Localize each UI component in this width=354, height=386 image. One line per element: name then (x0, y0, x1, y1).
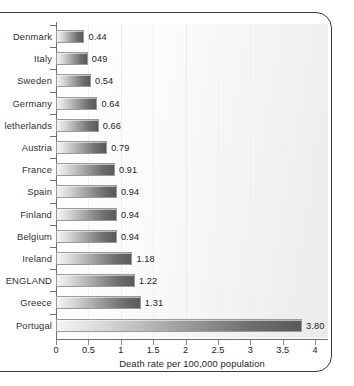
x-axis-tick-label: 2 (183, 345, 188, 355)
category-label: Belgium (17, 231, 52, 242)
bar (56, 74, 91, 87)
x-axis-tick-label: 3.5 (276, 345, 289, 355)
category-label: Finland (20, 209, 52, 220)
bar (56, 230, 117, 243)
bar (56, 208, 117, 221)
category-axis-tick (50, 114, 56, 115)
category-label: Greece (20, 297, 52, 308)
bar (56, 52, 88, 65)
bar (56, 274, 135, 287)
gridline (315, 24, 316, 338)
gridline (250, 24, 251, 338)
category-label: France (22, 164, 52, 175)
bar (56, 141, 107, 154)
value-axis-line (56, 339, 328, 340)
x-axis-tick-label: 2.5 (212, 345, 225, 355)
bar-value-label: 049 (92, 54, 108, 64)
bar-value-label: 0.44 (88, 32, 106, 42)
category-axis-tick (50, 136, 56, 137)
gridline (88, 24, 89, 338)
x-axis-tick-label: 4 (312, 345, 317, 355)
gridline (121, 24, 122, 338)
category-axis-tick (50, 291, 56, 292)
category-label: Portugal (16, 320, 52, 331)
x-axis-tick-label: 3 (248, 345, 253, 355)
category-axis-tick (50, 92, 56, 93)
category-label: Germany (12, 98, 52, 109)
category-label: Austria (22, 142, 52, 153)
bar-value-label: 1.18 (136, 254, 154, 264)
x-axis-tick-label: 0 (53, 345, 58, 355)
bar-value-label: 3.80 (306, 321, 324, 331)
bar-value-label: 0.94 (121, 187, 139, 197)
bar-value-label: 0.91 (119, 165, 137, 175)
bar-value-label: 0.79 (111, 143, 129, 153)
category-axis-tick (50, 203, 56, 204)
category-label: letherlands (4, 120, 52, 131)
category-label: Ireland (22, 253, 52, 264)
category-axis-tick (50, 247, 56, 248)
bar (56, 296, 141, 309)
x-axis-tick-label: 0.5 (82, 345, 95, 355)
category-axis-tick (50, 225, 56, 226)
category-axis-tick (50, 47, 56, 48)
gridline (153, 24, 154, 338)
category-label: Denmark (13, 31, 52, 42)
plot-area (56, 24, 328, 338)
category-label: Sweden (17, 75, 52, 86)
bar (56, 119, 99, 132)
category-axis-tick (50, 180, 56, 181)
bar (56, 185, 117, 198)
bar-value-label: 0.94 (121, 232, 139, 242)
category-label: Italy (34, 53, 52, 64)
x-axis-title: Death rate per 100,000 population (56, 358, 328, 369)
bar (56, 30, 84, 43)
bar-value-label: 1.31 (145, 298, 163, 308)
bar-value-label: 0.64 (101, 99, 119, 109)
category-axis-tick (50, 25, 56, 26)
gridline (218, 24, 219, 338)
chart-figure: Death rate per 100,000 population 00.511… (0, 0, 354, 386)
category-label: ENGLAND (6, 275, 52, 286)
category-axis-tick (50, 69, 56, 70)
x-axis-tick-label: 1 (118, 345, 123, 355)
bar-value-label: 1.22 (139, 276, 157, 286)
category-label: Spain (27, 186, 52, 197)
bar-value-label: 0.94 (121, 210, 139, 220)
bar-value-label: 0.54 (95, 76, 113, 86)
category-axis-line (56, 22, 57, 340)
category-axis-tick (50, 269, 56, 270)
bar (56, 319, 302, 332)
bar-value-label: 0.66 (103, 121, 121, 131)
bar (56, 252, 132, 265)
bar (56, 97, 97, 110)
category-axis-tick (50, 158, 56, 159)
gridline (283, 24, 284, 338)
x-axis-tick-label: 1.5 (147, 345, 160, 355)
gridline (186, 24, 187, 338)
category-axis-tick (50, 314, 56, 315)
bar (56, 163, 115, 176)
